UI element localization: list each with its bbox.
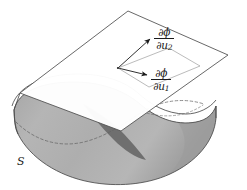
label-u2-denominator-subscript: 2: [168, 43, 173, 52]
label-partial-phi-partial-u2: ∂ϕ ∂u2: [154, 27, 174, 51]
label-u1-denominator-symbol: ∂u: [153, 80, 165, 92]
label-u2-numerator: ∂ϕ: [156, 27, 172, 38]
label-u2-denominator-symbol: ∂u: [156, 39, 168, 51]
label-u2-denominator: ∂u2: [154, 39, 174, 51]
label-u1-numerator: ∂ϕ: [153, 68, 169, 79]
tangent-plane-figure: ∂ϕ ∂u2 ∂ϕ ∂u1 S: [0, 0, 247, 190]
surface-label-s: S: [17, 155, 25, 168]
label-u1-denominator: ∂u1: [151, 80, 171, 92]
figure-canvas: [0, 0, 247, 190]
label-partial-phi-partial-u1: ∂ϕ ∂u1: [151, 68, 171, 92]
label-u1-denominator-subscript: 1: [165, 84, 170, 93]
